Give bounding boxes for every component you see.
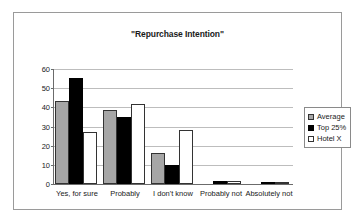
bar [165,165,179,184]
x-axis-category-label: Absolutely not [245,189,293,199]
y-axis-tick-label: 60 [42,65,50,74]
legend-item-label: Top 25% [317,123,346,132]
legend-swatch-icon [308,125,314,131]
bars-layer [54,69,293,184]
x-axis-category-label: Probably [101,189,149,199]
chart-title: "Repurchase Intention" [14,29,341,39]
bar-group [102,69,150,184]
bar [151,153,165,184]
bar [213,181,227,184]
bar [103,110,117,184]
y-axis-tick-label: 50 [42,84,50,93]
bar [83,132,97,184]
x-axis-category-label: I don't know [149,189,197,199]
bar [117,117,131,184]
bar [227,181,241,184]
legend-swatch-icon [308,136,314,142]
chart-frame: "Repurchase Intention" 0102030405060 Yes… [13,12,342,210]
bar [275,182,289,184]
legend-item-label: Hotel X [317,134,342,143]
bar [69,78,83,184]
bar-group [246,69,294,184]
y-axis-tick-label: 10 [42,160,50,169]
bar-group [150,69,198,184]
bar [55,101,69,184]
y-axis-tick-mark [51,184,54,185]
x-axis-category-label: Probably not [197,189,245,199]
x-axis-category-label: Yes, for sure [53,189,101,199]
bar [179,130,193,184]
y-axis-tick-label: 40 [42,103,50,112]
legend-item[interactable]: Average [308,111,346,122]
bar-group [54,69,102,184]
chart-legend: AverageTop 25%Hotel X [304,107,351,148]
y-axis-tick-label: 0 [46,180,50,189]
y-axis-tick-label: 20 [42,141,50,150]
bar-group [198,69,246,184]
legend-item-label: Average [317,112,345,121]
legend-item[interactable]: Hotel X [308,133,346,144]
bar [261,182,275,184]
plot-area: 0102030405060 [53,69,293,185]
legend-item[interactable]: Top 25% [308,122,346,133]
legend-swatch-icon [308,114,314,120]
x-axis-categories: Yes, for sureProbablyI don't knowProbabl… [53,189,293,221]
y-axis-tick-label: 30 [42,122,50,131]
bar [131,104,145,184]
